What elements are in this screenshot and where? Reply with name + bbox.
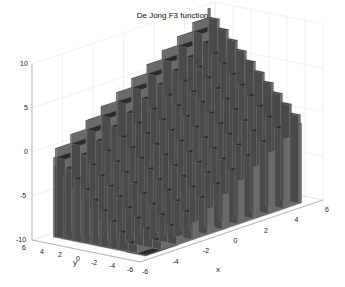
y-tick: -6 — [127, 266, 133, 273]
y-axis-label: y — [73, 258, 77, 267]
x-tick: 6 — [325, 206, 329, 213]
y-tick: 6 — [22, 244, 26, 251]
surface-plot — [0, 0, 345, 287]
z-tick: -5 — [20, 192, 26, 199]
z-tick: -10 — [16, 236, 26, 243]
z-tick: 5 — [24, 104, 28, 111]
x-tick: -2 — [203, 247, 209, 254]
chart-title: De Jong F3 function — [0, 11, 345, 20]
x-tick: 0 — [234, 237, 238, 244]
y-tick: -4 — [109, 262, 115, 269]
x-tick: 2 — [264, 227, 268, 234]
x-tick: -4 — [173, 258, 179, 265]
step-surface — [53, 8, 301, 256]
y-tick: 4 — [40, 248, 44, 255]
x-tick: 4 — [295, 216, 299, 223]
z-tick: 10 — [20, 60, 28, 67]
z-tick: 0 — [24, 148, 28, 155]
y-tick: 2 — [58, 251, 62, 258]
x-tick: -6 — [142, 268, 148, 275]
y-tick: -2 — [91, 259, 97, 266]
x-axis-label: x — [216, 265, 220, 274]
